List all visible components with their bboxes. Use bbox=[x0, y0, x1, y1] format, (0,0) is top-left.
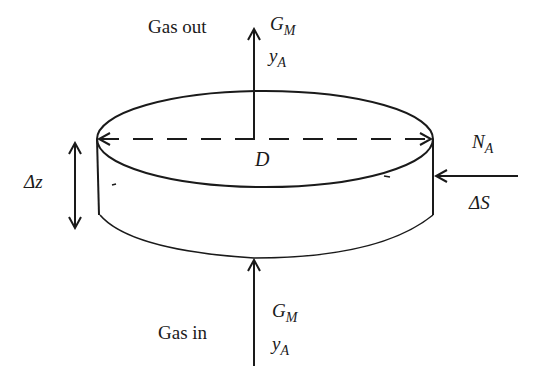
top-flow-label: GM bbox=[270, 14, 295, 33]
cylinder-diagram bbox=[0, 0, 536, 377]
flux-subscript: A bbox=[485, 141, 494, 156]
scan-mark-right bbox=[384, 176, 390, 177]
area-label: ΔS bbox=[469, 193, 490, 212]
flux-symbol: N bbox=[472, 131, 485, 152]
gas-in-label: Gas in bbox=[158, 323, 207, 342]
flux-label: NA bbox=[472, 132, 493, 151]
bottom-mole-fraction-subscript: A bbox=[280, 343, 289, 358]
top-mole-fraction-subscript: A bbox=[277, 55, 286, 70]
cylinder-left-wall bbox=[97, 139, 99, 215]
bottom-flow-symbol: G bbox=[272, 300, 286, 321]
bottom-flow-label: GM bbox=[272, 301, 297, 320]
bottom-mole-fraction-label: yA bbox=[272, 334, 289, 353]
top-flow-subscript: M bbox=[284, 23, 296, 38]
diagram-canvas: Gas out GM yA D Δz NA ΔS Gas in GM yA bbox=[0, 0, 536, 377]
gas-out-label: Gas out bbox=[148, 17, 207, 36]
scan-mark-left bbox=[112, 184, 116, 185]
bottom-flow-subscript: M bbox=[286, 310, 298, 325]
cylinder-bottom-arc bbox=[100, 215, 433, 258]
height-label: Δz bbox=[24, 172, 43, 191]
top-flow-symbol: G bbox=[270, 13, 284, 34]
diameter-label: D bbox=[255, 149, 269, 169]
top-mole-fraction-label: yA bbox=[269, 46, 286, 65]
